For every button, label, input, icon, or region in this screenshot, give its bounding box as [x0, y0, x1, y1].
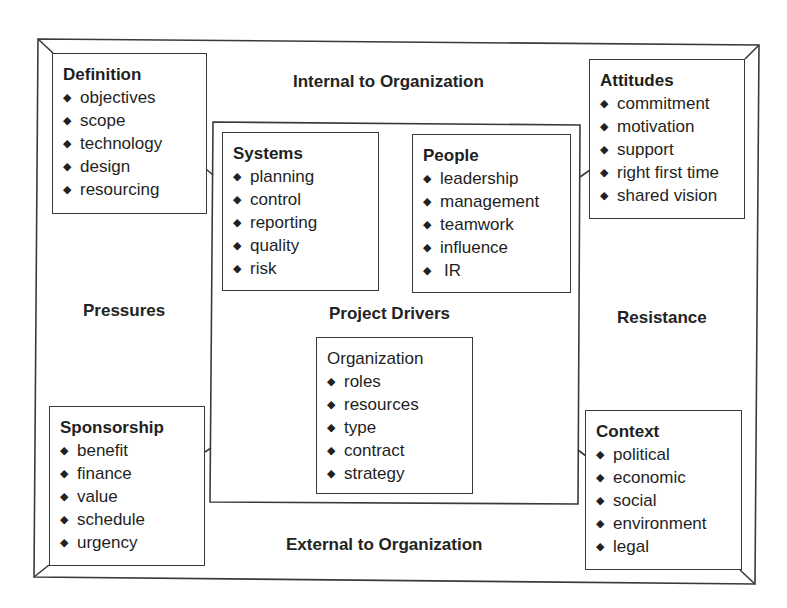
diamond-bullet-icon: ◆	[327, 393, 344, 416]
list-item: ◆risk	[233, 257, 378, 280]
item-list: ◆leadership ◆management ◆teamwork ◆influ…	[423, 167, 570, 282]
diamond-bullet-icon: ◆	[327, 462, 344, 485]
item-list: ◆benefit ◆finance ◆value ◆schedule ◆urge…	[60, 439, 204, 554]
item-label: risk	[250, 257, 276, 280]
list-item: ◆right first time	[600, 161, 744, 184]
list-item: ◆influence	[423, 236, 570, 259]
item-label: economic	[613, 466, 686, 489]
list-item: ◆leadership	[423, 167, 570, 190]
diamond-bullet-icon: ◆	[60, 462, 77, 485]
list-item: ◆type	[327, 416, 472, 439]
box-organization: Organization ◆roles ◆resources ◆type ◆co…	[316, 337, 473, 494]
box-title: Context	[596, 421, 741, 443]
list-item: ◆environment	[596, 512, 741, 535]
list-item: ◆IR	[423, 259, 570, 282]
diamond-bullet-icon: ◆	[423, 190, 440, 213]
box-people: People ◆leadership ◆management ◆teamwork…	[412, 134, 571, 293]
box-context: Context ◆political ◆economic ◆social ◆en…	[585, 410, 742, 570]
list-item: ◆design	[63, 155, 206, 178]
box-sponsorship: Sponsorship ◆benefit ◆finance ◆value ◆sc…	[49, 406, 205, 566]
box-systems: Systems ◆planning ◆control ◆reporting ◆q…	[222, 132, 379, 291]
item-label: political	[613, 443, 670, 466]
item-list: ◆planning ◆control ◆reporting ◆quality ◆…	[233, 165, 378, 280]
diamond-bullet-icon: ◆	[327, 370, 344, 393]
box-attitudes: Attitudes ◆commitment ◆motivation ◆suppo…	[589, 59, 745, 219]
diamond-bullet-icon: ◆	[233, 234, 250, 257]
item-label: urgency	[77, 531, 137, 554]
item-label: leadership	[440, 167, 518, 190]
diamond-bullet-icon: ◆	[63, 155, 80, 178]
diamond-bullet-icon: ◆	[233, 165, 250, 188]
list-item: ◆economic	[596, 466, 741, 489]
diamond-bullet-icon: ◆	[423, 259, 440, 282]
diamond-bullet-icon: ◆	[233, 188, 250, 211]
item-label: social	[613, 489, 656, 512]
item-label: benefit	[77, 439, 128, 462]
item-list: ◆political ◆economic ◆social ◆environmen…	[596, 443, 741, 558]
box-title: Attitudes	[600, 70, 744, 92]
box-title: Definition	[63, 64, 206, 86]
item-label: teamwork	[440, 213, 514, 236]
diamond-bullet-icon: ◆	[600, 138, 617, 161]
item-label: IR	[440, 259, 461, 282]
diamond-bullet-icon: ◆	[600, 115, 617, 138]
diamond-bullet-icon: ◆	[596, 512, 613, 535]
box-title: Systems	[233, 143, 378, 165]
box-title: Organization	[327, 348, 472, 370]
box-definition: Definition ◆objectives ◆scope ◆technolog…	[52, 53, 207, 214]
item-label: commitment	[617, 92, 710, 115]
list-item: ◆quality	[233, 234, 378, 257]
label-pressures: Pressures	[83, 301, 165, 321]
list-item: ◆roles	[327, 370, 472, 393]
list-item: ◆benefit	[60, 439, 204, 462]
diamond-bullet-icon: ◆	[600, 92, 617, 115]
bevel-top-right	[745, 45, 759, 59]
diamond-bullet-icon: ◆	[600, 184, 617, 207]
list-item: ◆reporting	[233, 211, 378, 234]
list-item: ◆social	[596, 489, 741, 512]
item-label: finance	[77, 462, 132, 485]
list-item: ◆schedule	[60, 508, 204, 531]
diamond-bullet-icon: ◆	[63, 109, 80, 132]
list-item: ◆planning	[233, 165, 378, 188]
item-label: contract	[344, 439, 404, 462]
item-label: control	[250, 188, 301, 211]
list-item: ◆strategy	[327, 462, 472, 485]
item-list: ◆commitment ◆motivation ◆support ◆right …	[600, 92, 744, 207]
diamond-bullet-icon: ◆	[423, 213, 440, 236]
diamond-bullet-icon: ◆	[60, 439, 77, 462]
item-label: scope	[80, 109, 125, 132]
diamond-bullet-icon: ◆	[600, 161, 617, 184]
list-item: ◆contract	[327, 439, 472, 462]
item-label: roles	[344, 370, 381, 393]
item-label: right first time	[617, 161, 719, 184]
diamond-bullet-icon: ◆	[327, 439, 344, 462]
diamond-bullet-icon: ◆	[63, 86, 80, 109]
box-title: People	[423, 145, 570, 167]
list-item: ◆technology	[63, 132, 206, 155]
list-item: ◆scope	[63, 109, 206, 132]
item-label: resources	[344, 393, 419, 416]
bevel-bottom-left	[34, 565, 49, 577]
list-item: ◆value	[60, 485, 204, 508]
list-item: ◆management	[423, 190, 570, 213]
diamond-bullet-icon: ◆	[327, 416, 344, 439]
box-title: Sponsorship	[60, 417, 204, 439]
item-label: objectives	[80, 86, 156, 109]
diamond-bullet-icon: ◆	[423, 236, 440, 259]
item-label: motivation	[617, 115, 694, 138]
item-label: resourcing	[80, 178, 159, 201]
label-resistance: Resistance	[617, 308, 707, 328]
item-label: quality	[250, 234, 299, 257]
item-label: planning	[250, 165, 314, 188]
diamond-bullet-icon: ◆	[63, 178, 80, 201]
list-item: ◆finance	[60, 462, 204, 485]
label-external: External to Organization	[286, 535, 482, 555]
label-project-drivers: Project Drivers	[329, 304, 450, 324]
list-item: ◆objectives	[63, 86, 206, 109]
bevel-bottom-right	[740, 570, 755, 584]
item-label: strategy	[344, 462, 404, 485]
item-label: shared vision	[617, 184, 717, 207]
list-item: ◆legal	[596, 535, 741, 558]
item-list: ◆objectives ◆scope ◆technology ◆design ◆…	[63, 86, 206, 201]
